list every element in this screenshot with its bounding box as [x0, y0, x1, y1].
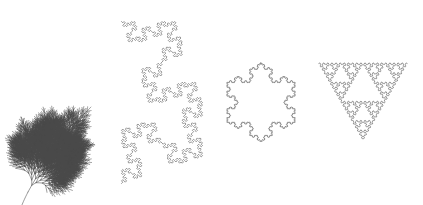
sierpinski-lobed-curve-path [319, 63, 407, 139]
figure-plant-branch [8, 6, 112, 200]
koch-snowflake-svg [212, 44, 310, 157]
plant-branch-path [5, 106, 94, 205]
figure-sierpinski-lobed-curve [316, 36, 410, 166]
figure-koch-snowflake [212, 44, 310, 157]
quadratic-koch-island-path [122, 22, 203, 184]
koch-snowflake-path [227, 63, 295, 142]
quadratic-koch-island-svg [116, 12, 208, 193]
figure-panel [0, 0, 423, 205]
plant-branch-svg [8, 6, 112, 200]
sierpinski-arrowhead-lobed-svg [316, 36, 410, 166]
figure-quadratic-koch-island [116, 12, 208, 193]
